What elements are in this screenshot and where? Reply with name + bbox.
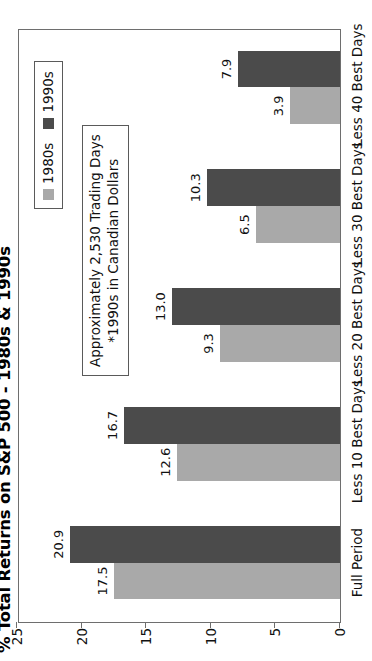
- bar-1980s[interactable]: 17.5: [114, 563, 340, 600]
- legend-label: 1990s: [40, 71, 56, 112]
- bar-value-label: 17.5: [95, 567, 110, 596]
- bar-1990s[interactable]: 7.9: [238, 51, 340, 88]
- y-axis-tick-label: 25: [9, 628, 25, 645]
- y-axis-tick-label: 20: [74, 628, 90, 645]
- bar-1990s[interactable]: 13.0: [172, 288, 340, 325]
- y-axis-tick-label: 5: [267, 628, 283, 637]
- plot-area: 0510152025 17.520.9Full Period12.616.7Le…: [18, 29, 341, 623]
- bar-value-label: 9.3: [201, 333, 216, 354]
- bar-1980s[interactable]: 9.3: [220, 325, 340, 362]
- y-axis-tick-label: 0: [332, 628, 348, 637]
- bar-1990s[interactable]: 16.7: [124, 407, 340, 444]
- legend-label: 1980s: [40, 143, 56, 184]
- annotation-box: Approximately 2,530 Trading Days *1990s …: [82, 125, 129, 376]
- category-axis-label: Less 30 Best Days: [349, 147, 365, 266]
- legend: 1980s1990s: [34, 61, 63, 209]
- category-group: 9.313.0Less 20 Best Days: [19, 266, 340, 385]
- legend-entry-1990s[interactable]: 1990s: [40, 71, 56, 128]
- chart-title: % Total Returns on S&P 500 - 1980s & 199…: [0, 13, 14, 653]
- category-axis-label: Less 10 Best Days: [349, 384, 365, 503]
- bar-1980s[interactable]: 6.5: [256, 206, 340, 243]
- bar-value-label: 6.5: [237, 214, 252, 235]
- legend-entry-1980s[interactable]: 1980s: [40, 143, 56, 200]
- y-axis-tick-label: 15: [138, 628, 154, 645]
- bar-1980s[interactable]: 12.6: [177, 444, 340, 481]
- bar-value-label: 7.9: [219, 59, 234, 80]
- category-group: 6.510.3Less 30 Best Days: [19, 147, 340, 266]
- bar-value-label: 13.0: [153, 292, 168, 321]
- y-axis-tick-label: 10: [203, 628, 219, 645]
- category-group: 12.616.7Less 10 Best Days: [19, 384, 340, 503]
- bar-value-label: 20.9: [51, 530, 66, 559]
- bar-value-label: 16.7: [105, 411, 120, 440]
- category-group: 17.520.9Full Period: [19, 503, 340, 622]
- category-axis-label: Less 40 Best Days: [349, 28, 365, 147]
- legend-swatch-icon: [43, 189, 54, 200]
- bar-value-label: 10.3: [188, 173, 203, 202]
- bar-value-label: 3.9: [271, 96, 286, 117]
- annotation-line-2: *1990s in Canadian Dollars: [105, 134, 123, 367]
- category-axis-label: Less 20 Best Days: [349, 266, 365, 385]
- category-group: 3.97.9Less 40 Best Days: [19, 28, 340, 147]
- legend-swatch-icon: [43, 118, 54, 129]
- chart-canvas: % Total Returns on S&P 500 - 1980s & 199…: [0, 0, 372, 661]
- bar-value-label: 12.6: [158, 448, 173, 477]
- bar-1990s[interactable]: 20.9: [70, 526, 340, 563]
- category-axis-label: Full Period: [349, 503, 365, 622]
- bar-1980s[interactable]: 3.9: [290, 87, 340, 124]
- bar-1990s[interactable]: 10.3: [207, 169, 340, 206]
- annotation-line-1: Approximately 2,530 Trading Days: [87, 134, 105, 367]
